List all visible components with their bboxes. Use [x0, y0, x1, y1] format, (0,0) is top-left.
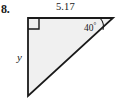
triangle-shape	[28, 18, 113, 96]
figure-container: 8. 5.17 y 40°	[0, 0, 119, 101]
left-leg-variable-label: y	[17, 52, 22, 63]
angle-measure-label: 40°	[84, 22, 96, 34]
degree-symbol: °	[94, 21, 97, 29]
problem-number: 8.	[1, 3, 10, 15]
angle-value: 40	[84, 23, 94, 33]
top-leg-length-label: 5.17	[56, 2, 75, 13]
